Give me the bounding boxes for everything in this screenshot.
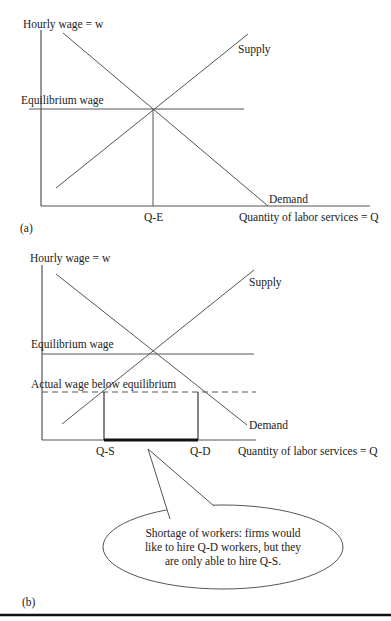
x-axis-label: Quantity of labor services = Q [238,445,378,458]
x-axis-label: Quantity of labor services = Q [239,211,379,224]
y-axis-label: Hourly wage = w [23,18,104,31]
supply-label: Supply [249,276,282,289]
quantity-supplied-label: Q-S [96,445,115,457]
actual-wage-label: Actual wage below equilibrium [31,378,176,391]
callout-line-3: are only able to hire Q-S. [165,555,281,568]
panel-b: Hourly wage = w Equilibrium wage Actual … [22,252,378,609]
demand-label: Demand [269,193,308,205]
callout-line-2: like to hire Q-D workers, but they [145,541,301,554]
quantity-demanded-label: Q-D [190,445,210,457]
equilibrium-wage-label: Equilibrium wage [31,338,114,351]
demand-label: Demand [249,419,288,431]
shortage-callout: Shortage of workers: firms would like to… [103,449,343,589]
equilibrium-wage-label: Equilibrium wage [21,94,104,107]
demand-curve [63,33,268,206]
panel-a: Hourly wage = w Equilibrium wage Supply … [20,18,379,235]
panel-caption: (b) [22,596,36,609]
equilibrium-quantity-label: Q-E [144,211,163,223]
callout-line-1: Shortage of workers: firms would [145,527,300,540]
supply-label: Supply [238,43,271,56]
panel-caption: (a) [20,222,33,235]
y-axis-label: Hourly wage = w [30,252,111,265]
labor-market-diagrams: Hourly wage = w Equilibrium wage Supply … [0,0,391,621]
